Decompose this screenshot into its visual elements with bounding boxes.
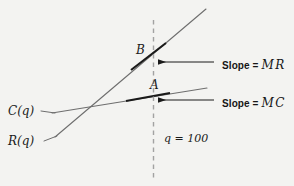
slope-mc-callout: Slope =MC (222, 94, 285, 110)
slope-mc-variable-c: C (274, 96, 285, 110)
slope-mc-word: Slope = (222, 98, 259, 109)
revenue-curve-label: R(q) (8, 135, 34, 147)
cost-curve-label: C(q) (8, 105, 34, 117)
point-a-label: A (150, 79, 159, 91)
revenue-curve-label-leader (44, 136, 57, 141)
slope-mr-callout: Slope =MR (222, 56, 284, 72)
point-b-label: B (136, 44, 145, 56)
slope-mr-variable-r: R (274, 58, 285, 72)
figure-canvas: C(q) R(q) B A q = 100 Slope =MR Slope =M… (0, 0, 294, 186)
quantity-reference-label: q = 100 (164, 133, 208, 144)
slope-mr-word: Slope = (222, 60, 259, 71)
diagram-svg (0, 0, 294, 186)
slope-mr-variable-m: M (259, 58, 274, 72)
revenue-curve-line (55, 9, 206, 137)
cost-curve-label-leader (41, 111, 55, 113)
slope-mc-variable-m: M (259, 96, 274, 110)
